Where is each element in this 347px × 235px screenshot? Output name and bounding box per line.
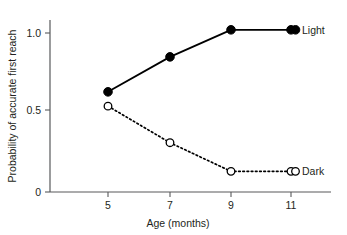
series-light: Light (104, 24, 325, 96)
series-dark: Dark (104, 102, 325, 177)
series-light-line (108, 30, 291, 92)
x-tick-label-1: 5 (105, 199, 111, 211)
series-light-point-9 (227, 26, 236, 35)
series-light-legend-marker (291, 26, 300, 35)
series-light-label: Light (302, 24, 325, 36)
series-dark-point-7 (166, 139, 174, 147)
x-tick-label-2: 7 (167, 199, 173, 211)
series-dark-line (108, 106, 291, 171)
y-tick-label-2: 0.5 (26, 104, 41, 116)
y-axis-title: Probability of accurate first reach (6, 29, 18, 182)
chart-figure: 1.0 0.5 0 5 7 9 11 Age (months) Probabil… (0, 0, 347, 235)
series-dark-point-5 (104, 102, 112, 110)
y-tick-label-3: 0 (35, 186, 41, 198)
x-tick-label-3: 9 (228, 199, 234, 211)
series-dark-point-9 (227, 168, 235, 176)
x-tick-label-4: 11 (286, 199, 297, 211)
y-tick-label-1: 1.0 (26, 27, 41, 39)
series-dark-label: Dark (302, 165, 325, 177)
series-light-point-7 (166, 53, 175, 62)
x-axis-title: Age (months) (146, 217, 209, 229)
series-dark-legend-marker (292, 168, 300, 176)
series-light-point-5 (104, 88, 113, 97)
line-chart: 1.0 0.5 0 5 7 9 11 Age (months) Probabil… (0, 0, 347, 235)
